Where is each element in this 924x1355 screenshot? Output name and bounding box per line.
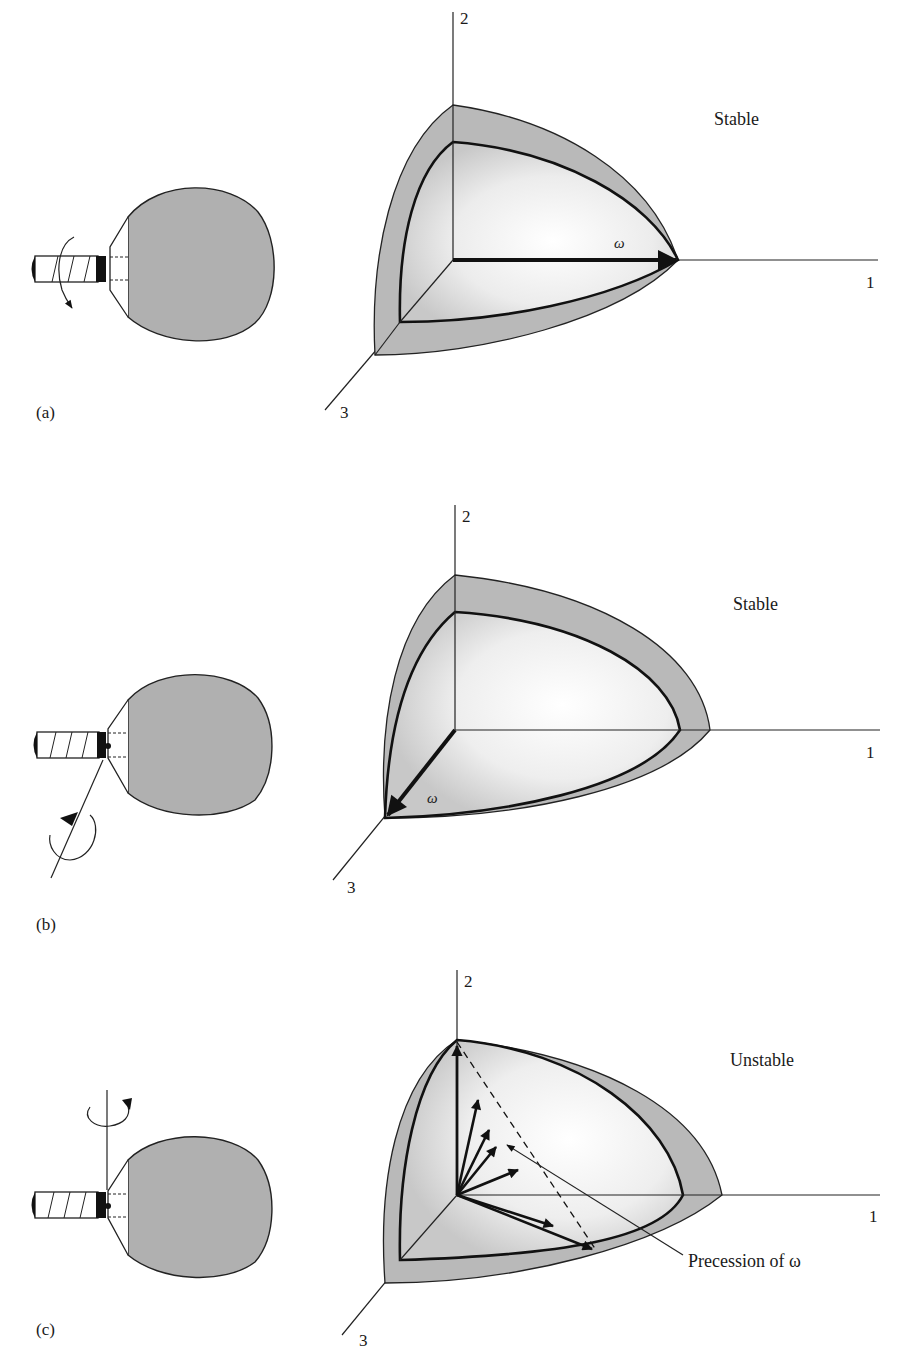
axis-3-label: 3	[340, 403, 349, 422]
paddle-b	[34, 675, 272, 878]
paddle-neck	[110, 217, 128, 317]
panel-c: 2 1 3 Unstable Precession of ω (c)	[32, 970, 881, 1350]
rotation-arrow-icon	[88, 1106, 129, 1126]
handle-cap	[32, 256, 36, 282]
stability-status: Unstable	[730, 1050, 794, 1070]
panel-b: 2 1 3 ω Stable (b)	[34, 505, 881, 934]
axis-3-label: 3	[347, 878, 356, 897]
handle-cap	[32, 1192, 36, 1218]
momentum-ellipsoid-inner	[400, 1040, 683, 1260]
paddle-c	[32, 1090, 272, 1277]
figure-canvas: 2 1 3 ω Stable (a)	[0, 0, 924, 1355]
paddle-blade	[128, 675, 272, 815]
axis-2-label: 2	[462, 507, 471, 526]
omega-label: ω	[427, 790, 438, 806]
handle-cap	[34, 732, 38, 758]
omega-label: ω	[614, 235, 625, 251]
panel-label: (c)	[36, 1320, 55, 1339]
stability-status: Stable	[714, 109, 759, 129]
paddle-neck	[108, 700, 128, 793]
paddle-handle	[35, 256, 98, 282]
handle-collar	[96, 256, 106, 282]
panel-label: (b)	[36, 915, 56, 934]
axis-3-label: 3	[359, 1331, 368, 1350]
handle-collar	[96, 1192, 106, 1218]
paddle-a	[32, 188, 275, 341]
paddle-blade	[128, 188, 274, 341]
paddle-handle	[37, 732, 99, 758]
axis-1-label: 1	[866, 743, 875, 762]
panel-a: 2 1 3 ω Stable (a)	[32, 9, 879, 422]
axis-1-label: 1	[869, 1207, 878, 1226]
axis-2-label: 2	[460, 9, 469, 28]
precession-annotation: Precession of ω	[688, 1251, 801, 1271]
handle-collar	[97, 732, 106, 758]
stability-status: Stable	[733, 594, 778, 614]
axis-2-label: 2	[464, 972, 473, 991]
momentum-ellipsoid-inner	[400, 142, 678, 322]
axis-1-label: 1	[866, 273, 875, 292]
rotation-axis-line	[51, 760, 103, 878]
paddle-neck	[108, 1160, 128, 1255]
paddle-blade	[128, 1137, 272, 1278]
panel-label: (a)	[36, 403, 55, 422]
